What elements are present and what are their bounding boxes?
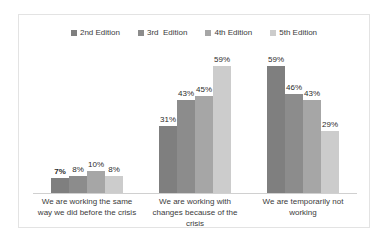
bar-value-label: 45% — [196, 86, 212, 94]
legend-swatch-icon — [71, 30, 77, 36]
bar-value-label: 46% — [286, 84, 302, 92]
bar-slot: 46% — [285, 53, 303, 193]
category-axis: We are working the same way we did befor… — [33, 197, 357, 229]
bar-group: 59%46%43%29% — [254, 53, 351, 193]
bar-value-label: 31% — [160, 116, 176, 124]
legend-swatch-icon — [270, 30, 276, 36]
plot-area: 7%8%10%8%31%43%45%59%59%46%43%29% — [33, 53, 357, 193]
legend-label: 3rd Edition — [147, 29, 187, 37]
bar[interactable] — [195, 96, 213, 193]
category-label: We are working with changes because of t… — [145, 197, 245, 229]
legend-label: 5th Edition — [279, 29, 317, 37]
legend-item-4th-edition[interactable]: 4th Edition — [205, 29, 252, 37]
bar-slot: 7% — [51, 53, 69, 193]
bar-slot: 45% — [195, 53, 213, 193]
bar-value-label: 8% — [108, 166, 120, 174]
bar-slot: 43% — [303, 53, 321, 193]
bar-value-label: 29% — [322, 121, 338, 129]
bar-groups: 7%8%10%8%31%43%45%59%59%46%43%29% — [33, 53, 357, 193]
bar-value-label: 8% — [72, 166, 84, 174]
legend-label: 4th Edition — [214, 29, 252, 37]
bar[interactable] — [213, 66, 231, 193]
legend-swatch-icon — [205, 30, 211, 36]
bar[interactable] — [177, 100, 195, 193]
bar-value-label: 59% — [268, 56, 284, 64]
category-label: We are working the same way we did befor… — [37, 197, 137, 229]
bar-slot: 31% — [159, 53, 177, 193]
bar-group: 7%8%10%8% — [38, 53, 135, 193]
legend-item-2nd-edition[interactable]: 2nd Edition — [71, 29, 120, 37]
bar[interactable] — [321, 131, 339, 193]
bar-slot: 43% — [177, 53, 195, 193]
bar[interactable] — [267, 66, 285, 193]
bar[interactable] — [105, 176, 123, 193]
bar[interactable] — [285, 94, 303, 193]
bar-value-label: 59% — [214, 56, 230, 64]
bar-slot: 29% — [321, 53, 339, 193]
bar[interactable] — [303, 100, 321, 193]
legend-item-5th-edition[interactable]: 5th Edition — [270, 29, 317, 37]
bar-group: 31%43%45%59% — [146, 53, 243, 193]
bar-value-label: 10% — [88, 161, 104, 169]
legend-swatch-icon — [138, 30, 144, 36]
bar-value-label: 43% — [178, 90, 194, 98]
bar-slot: 8% — [69, 53, 87, 193]
category-label: We are temporarily not working — [253, 197, 353, 229]
bar-value-label: 7% — [54, 168, 66, 176]
bar-value-label: 43% — [304, 90, 320, 98]
bar-slot: 8% — [105, 53, 123, 193]
bar-slot: 10% — [87, 53, 105, 193]
legend-label: 2nd Edition — [80, 29, 120, 37]
bar[interactable] — [51, 178, 69, 193]
bar-slot: 59% — [267, 53, 285, 193]
axis-baseline — [33, 193, 357, 194]
chart-legend: 2nd Edition 3rd Edition 4th Edition 5th … — [19, 29, 369, 37]
legend-item-3rd-edition[interactable]: 3rd Edition — [138, 29, 187, 37]
bar[interactable] — [159, 126, 177, 193]
bar-slot: 59% — [213, 53, 231, 193]
chart-frame: 2nd Edition 3rd Edition 4th Edition 5th … — [18, 14, 370, 228]
bar[interactable] — [69, 176, 87, 193]
bar[interactable] — [87, 171, 105, 193]
